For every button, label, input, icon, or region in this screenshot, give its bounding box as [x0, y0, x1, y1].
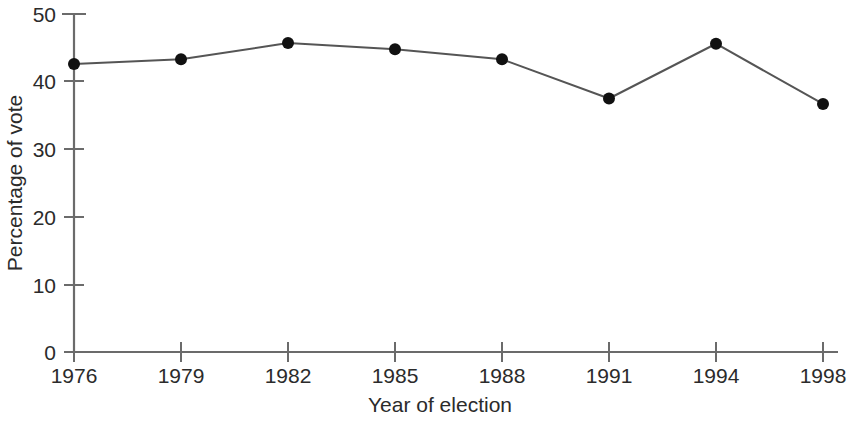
y-tick-label-50: 50	[33, 3, 56, 26]
y-axis-title: Percentage of vote	[3, 95, 26, 271]
series-markers	[68, 37, 829, 110]
data-point-1994	[710, 38, 722, 50]
x-tick-label-1982: 1982	[265, 364, 312, 387]
x-tick-label-1979: 1979	[158, 364, 205, 387]
x-axis-title: Year of election	[368, 393, 512, 416]
y-tick-label-10: 10	[33, 274, 56, 297]
line-chart: 50 40 30 20 10 0 1976 1979 1982 1985 198…	[0, 0, 852, 425]
data-point-1985	[389, 43, 401, 55]
y-tick-label-0: 0	[44, 341, 56, 364]
data-point-1982	[282, 37, 294, 49]
y-tick-label-40: 40	[33, 70, 56, 93]
x-tick-label-1985: 1985	[372, 364, 419, 387]
x-tick-label-1988: 1988	[479, 364, 526, 387]
y-tick-label-30: 30	[33, 138, 56, 161]
data-point-1991	[603, 93, 615, 105]
x-tick-label-1991: 1991	[586, 364, 633, 387]
y-axis-ticks: 50 40 30 20 10 0	[33, 3, 86, 364]
series-line	[74, 43, 823, 104]
x-tick-label-1994: 1994	[693, 364, 740, 387]
data-point-1988	[496, 53, 508, 65]
chart-figure: 50 40 30 20 10 0 1976 1979 1982 1985 198…	[0, 0, 852, 425]
y-tick-label-20: 20	[33, 206, 56, 229]
data-series-percentage-of-vote	[68, 37, 829, 110]
x-tick-label-1998: 1998	[800, 364, 847, 387]
data-point-1998	[817, 98, 829, 110]
axes-group	[74, 14, 838, 352]
x-tick-label-1976: 1976	[51, 364, 98, 387]
x-axis-ticks: 1976 1979 1982 1985 1988 1991 1994 1998	[51, 342, 847, 387]
data-point-1976	[68, 58, 80, 70]
data-point-1979	[175, 53, 187, 65]
